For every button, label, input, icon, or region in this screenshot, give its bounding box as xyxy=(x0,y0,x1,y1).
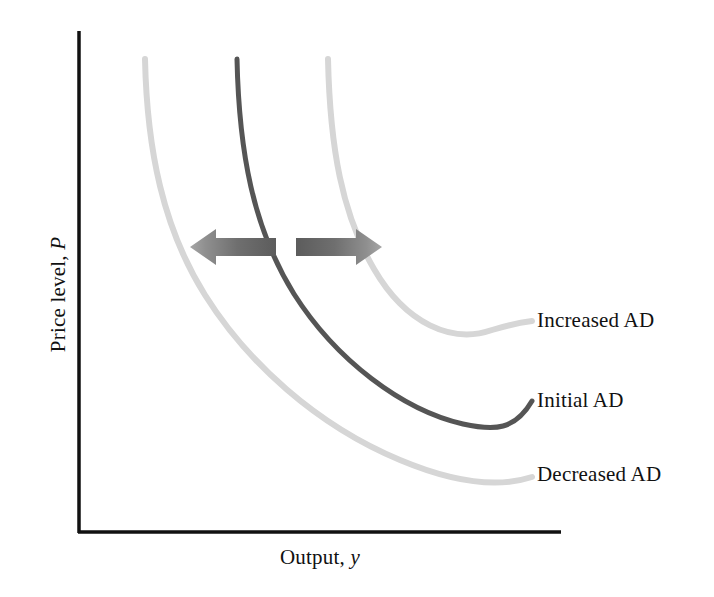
curve-decreased-ad xyxy=(145,59,532,483)
y-axis-label-symbol: P xyxy=(46,237,70,250)
curve-label-increased-ad: Increased AD xyxy=(537,308,654,333)
curve-initial-ad xyxy=(237,59,532,428)
ad-shift-diagram: Price level, P Output, y Increased AD In… xyxy=(0,0,714,597)
curve-label-initial-ad: Initial AD xyxy=(537,388,624,413)
curve-increased-ad xyxy=(328,59,532,334)
chart-canvas xyxy=(0,0,714,597)
x-axis-label: Output, y xyxy=(280,545,360,570)
x-axis-label-text: Output, xyxy=(280,545,350,569)
x-axis-label-symbol: y xyxy=(350,545,360,569)
y-axis-label-text: Price level, xyxy=(46,250,70,352)
y-axis-label: Price level, P xyxy=(46,195,71,395)
curve-label-decreased-ad: Decreased AD xyxy=(537,462,661,487)
